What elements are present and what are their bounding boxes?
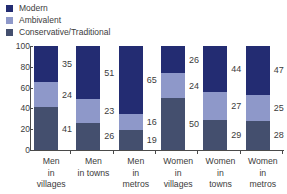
bar-segment-value: 26	[104, 132, 114, 141]
y-tick-label: 100	[6, 42, 30, 51]
bar-segment[interactable]: 44	[203, 46, 227, 92]
bar-segment-value: 50	[189, 119, 199, 128]
x-axis-label-line: metros	[113, 179, 159, 191]
x-axis-category-label: Menin towns	[70, 156, 116, 191]
bar-segment-value: 44	[231, 64, 241, 73]
x-axis-label-line: in towns	[70, 168, 116, 180]
bar-segment-value: 29	[231, 130, 241, 139]
x-axis-labels: MeninvillagesMenin towns MeninmetrosWome…	[30, 156, 284, 194]
stacked-bar[interactable]: 472528	[246, 46, 270, 150]
x-axis-label-line: Men	[28, 156, 74, 168]
stacked-bar[interactable]: 262450	[161, 46, 185, 150]
y-tick-label: 40	[6, 104, 30, 113]
bar-segment[interactable]: 26	[76, 123, 100, 150]
x-axis-category-label: Meninvillages	[28, 156, 74, 191]
x-tick-mark	[155, 151, 156, 154]
bar-segment-value: 24	[62, 90, 72, 99]
bars-container: 352441512326651619262450442729472528	[30, 46, 284, 150]
bar-segment[interactable]: 65	[119, 46, 143, 114]
bar-segment[interactable]: 41	[34, 107, 58, 150]
legend-item-modern: Modern	[6, 2, 196, 14]
y-tick-mark	[30, 129, 33, 130]
bar-segment[interactable]: 24	[161, 73, 185, 98]
x-axis-label-line: Men	[70, 156, 116, 168]
bar-segment[interactable]: 24	[34, 82, 58, 107]
bar-segment[interactable]: 25	[246, 95, 270, 121]
bar-segment[interactable]: 27	[203, 92, 227, 120]
bar-segment-value: 65	[147, 75, 157, 84]
x-tick-mark	[240, 151, 241, 154]
bar-segment[interactable]: 16	[119, 114, 143, 131]
x-axis-label-line: in	[113, 168, 159, 180]
x-axis-label-line: Men	[113, 156, 159, 168]
legend-label-conservative: Conservative/Traditional	[19, 28, 110, 37]
bar-segment[interactable]: 19	[119, 130, 143, 150]
bar-segment[interactable]: 50	[161, 98, 185, 150]
bar-group: 442729	[203, 46, 227, 150]
bar-segment-value: 24	[189, 81, 199, 90]
bar-segment-value: 47	[274, 66, 284, 75]
bar-group: 512326	[76, 46, 100, 150]
y-axis-ticks: 100806040200	[0, 42, 30, 194]
bar-segment[interactable]: 35	[34, 46, 58, 82]
x-tick-mark	[70, 151, 71, 154]
y-tick-mark	[30, 88, 33, 89]
bar-segment-value: 35	[62, 60, 72, 69]
bar-segment-value: 19	[147, 136, 157, 145]
stacked-bar[interactable]: 352441	[34, 46, 58, 150]
legend-label-ambivalent: Ambivalent	[19, 16, 61, 25]
legend-item-conservative: Conservative/Traditional	[6, 26, 196, 38]
x-axis-category-label: Womeninmetros	[240, 156, 286, 191]
bar-segment-value: 27	[231, 101, 241, 110]
legend-item-ambivalent: Ambivalent	[6, 14, 196, 26]
bar-segment-value: 23	[104, 106, 114, 115]
x-tick-mark	[197, 151, 198, 154]
y-tick-label: 0	[6, 146, 30, 155]
x-axis-line	[30, 150, 284, 151]
y-tick-mark	[30, 67, 33, 68]
bar-segment-value: 51	[104, 68, 114, 77]
bar-segment[interactable]: 29	[203, 120, 227, 150]
legend-swatch-modern-icon	[6, 5, 13, 12]
y-tick-mark	[30, 46, 33, 47]
bar-segment[interactable]: 51	[76, 46, 100, 99]
bar-segment-value: 28	[274, 131, 284, 140]
bar-segment[interactable]: 23	[76, 99, 100, 123]
bar-segment-value: 26	[189, 55, 199, 64]
x-axis-label-line: in	[155, 168, 201, 180]
legend-swatch-ambivalent-icon	[6, 17, 13, 24]
x-axis-label-line: in	[197, 168, 243, 180]
x-axis-category-label: Meninmetros	[113, 156, 159, 191]
y-tick-label: 80	[6, 63, 30, 72]
x-axis-label-line: Women	[197, 156, 243, 168]
x-axis-label-line: in	[240, 168, 286, 180]
x-axis-label-line: Women	[155, 156, 201, 168]
x-axis-label-line	[70, 179, 116, 191]
x-axis-label-line: metros	[240, 179, 286, 191]
bar-group: 352441	[34, 46, 58, 150]
x-tick-mark	[282, 151, 283, 154]
bar-group: 651619	[119, 46, 143, 150]
stacked-bar[interactable]: 512326	[76, 46, 100, 150]
x-axis-category-label: Womeninvillages	[155, 156, 201, 191]
bar-segment[interactable]: 47	[246, 46, 270, 95]
bar-segment-value: 16	[147, 117, 157, 126]
bar-group: 472528	[246, 46, 270, 150]
x-tick-mark	[113, 151, 114, 154]
y-tick-label: 60	[6, 84, 30, 93]
legend-swatch-conservative-icon	[6, 29, 13, 36]
x-axis-label-line: villages	[155, 179, 201, 191]
chart-legend: Modern Ambivalent Conservative/Tradition…	[6, 2, 196, 38]
bar-group: 262450	[161, 46, 185, 150]
bar-segment[interactable]: 26	[161, 46, 185, 73]
legend-label-modern: Modern	[19, 4, 48, 13]
bar-segment[interactable]: 28	[246, 121, 270, 150]
x-axis-label-line: Women	[240, 156, 286, 168]
stacked-bar[interactable]: 651619	[119, 46, 143, 150]
y-tick-mark	[30, 108, 33, 109]
bar-segment-value: 41	[62, 124, 72, 133]
y-tick-mark	[30, 150, 33, 151]
x-axis-label-line: villages	[28, 179, 74, 191]
stacked-bar[interactable]: 442729	[203, 46, 227, 150]
x-axis-category-label: Womenintowns	[197, 156, 243, 191]
